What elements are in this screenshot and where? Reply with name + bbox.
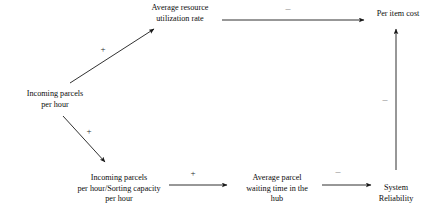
node-label-line: Incoming parcels bbox=[27, 89, 84, 100]
polarity-waiting-time-to-reliability: – bbox=[333, 167, 343, 176]
node-incoming-parcels-per-hour[interactable]: Incoming parcels per hour bbox=[27, 89, 84, 110]
polarity-parcels-to-utilization: + bbox=[98, 45, 108, 54]
arrow-parcels-to-ratio bbox=[63, 116, 105, 162]
node-per-item-cost[interactable]: Per item cost bbox=[377, 9, 420, 20]
node-average-parcel-waiting-time[interactable]: Average parcel waiting time in the hub bbox=[246, 173, 308, 205]
node-label-line: Reliability bbox=[379, 194, 414, 205]
node-label-line: hub bbox=[246, 194, 308, 205]
node-label-line: utilization rate bbox=[152, 14, 209, 25]
node-label-line: Average parcel bbox=[246, 173, 308, 184]
node-label-line: per hour bbox=[77, 194, 160, 205]
node-average-resource-utilization-rate[interactable]: Average resource utilization rate bbox=[152, 3, 209, 24]
node-incoming-parcels-over-sorting-capacity[interactable]: Incoming parcels per hour/Sorting capaci… bbox=[77, 173, 160, 205]
node-label-line: Per item cost bbox=[377, 9, 420, 20]
polarity-utilization-to-cost: – bbox=[283, 4, 293, 13]
causal-loop-diagram: Average resource utilization rate Per it… bbox=[0, 0, 435, 217]
node-label-line: per hour/Sorting capacity bbox=[77, 184, 160, 195]
node-label-line: waiting time in the bbox=[246, 184, 308, 195]
node-label-line: Incoming parcels bbox=[77, 173, 160, 184]
node-label-line: Average resource bbox=[152, 3, 209, 14]
polarity-parcels-to-ratio: + bbox=[84, 127, 94, 136]
arrow-parcels-to-utilization bbox=[70, 29, 154, 83]
polarity-reliability-to-cost: – bbox=[380, 95, 390, 104]
node-label-line: System bbox=[379, 183, 414, 194]
polarity-ratio-to-waiting-time: + bbox=[188, 169, 198, 178]
node-label-line: per hour bbox=[27, 100, 84, 111]
node-system-reliability[interactable]: System Reliability bbox=[379, 183, 414, 204]
